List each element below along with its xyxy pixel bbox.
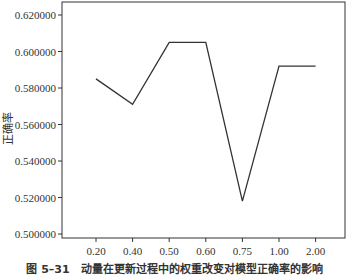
y-tick-label: 0.540000 (15, 155, 57, 167)
x-tick-label: 1.00 (269, 245, 289, 257)
y-axis: 0.5000000.5200000.5400000.5600000.580000… (15, 9, 62, 240)
y-tick-label: 0.620000 (15, 9, 57, 21)
accuracy-line (96, 42, 316, 201)
x-tick-label: 0.75 (233, 245, 253, 257)
x-axis: 0.200.400.500.600.751.002.00 (86, 238, 325, 257)
figure-caption: 图 5–31 动量在更新过程中的权重改变对模型正确率的影响 (0, 263, 349, 277)
x-tick-label: 0.20 (86, 245, 106, 257)
x-tick-label: 0.60 (196, 245, 216, 257)
y-axis-label: 正确率 (1, 112, 14, 145)
plot-frame (62, 2, 345, 238)
x-tick-label: 0.40 (123, 245, 143, 257)
y-tick-label: 0.580000 (15, 82, 57, 94)
y-tick-label: 0.560000 (15, 119, 57, 131)
y-tick-label: 0.500000 (15, 228, 57, 240)
x-tick-label: 2.00 (306, 245, 326, 257)
x-tick-label: 0.50 (160, 245, 180, 257)
y-tick-label: 0.520000 (15, 192, 57, 204)
y-tick-label: 0.600000 (15, 46, 57, 58)
